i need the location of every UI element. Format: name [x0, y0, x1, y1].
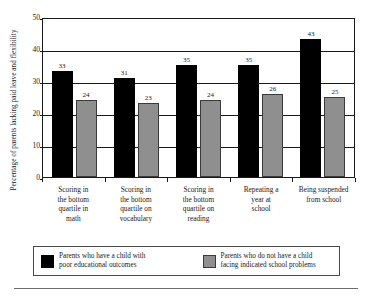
bar-group: 3526	[230, 19, 292, 177]
bar[interactable]: 23	[138, 103, 159, 177]
y-tick-label: 0	[24, 174, 40, 182]
legend-label-line: Parents who do not have a child	[221, 252, 316, 261]
legend-entry-dark: Parents who have a child withpoor educat…	[34, 252, 196, 271]
bar[interactable]: 26	[262, 94, 283, 177]
plot-area: 33243123352435264325	[42, 18, 355, 178]
y-tick-label: 20	[24, 110, 40, 118]
bar-value-label: 33	[59, 62, 66, 70]
bar-group: 4325	[292, 19, 354, 177]
x-category-label: Scoring inthe bottomquartile inmath	[42, 185, 105, 237]
x-axis-tick-marks	[42, 178, 355, 182]
legend-label-light: Parents who do not have a childfacing in…	[221, 252, 316, 271]
bar-value-label: 31	[121, 69, 128, 77]
y-tick-label: 50	[24, 14, 40, 22]
y-axis-title: Percentage of parents lacking paid leave…	[6, 4, 22, 216]
x-tick-mark	[42, 178, 43, 182]
bar-value-label: 24	[207, 91, 214, 99]
bar[interactable]: 24	[76, 100, 97, 177]
bottom-divider	[14, 288, 358, 289]
legend-label-dark: Parents who have a child withpoor educat…	[59, 252, 145, 271]
bar-groups: 33243123352435264325	[43, 19, 354, 177]
bar-group: 3123	[105, 19, 167, 177]
legend-swatch-dark-icon	[41, 255, 54, 268]
bar[interactable]: 24	[200, 100, 221, 177]
bar-value-label: 43	[307, 30, 314, 38]
x-tick-mark	[355, 178, 356, 182]
bar-value-label: 35	[245, 56, 252, 64]
x-category-label: Being suspendedfrom school	[292, 185, 355, 237]
x-category-label: Scoring inthe bottomquartile onreading	[167, 185, 230, 237]
bar[interactable]: 43	[300, 39, 321, 177]
legend-entry-light: Parents who do not have a childfacing in…	[196, 252, 340, 271]
legend-label-line: facing indicated school problems	[221, 261, 316, 270]
chart-legend: Parents who have a child withpoor educat…	[33, 246, 340, 276]
y-tick-label: 30	[24, 78, 40, 86]
legend-label-line: poor educational outcomes	[59, 261, 145, 270]
bar-group: 3524	[167, 19, 229, 177]
bar-value-label: 25	[331, 88, 338, 96]
y-tick-label: 40	[24, 46, 40, 54]
x-tick-mark	[230, 178, 231, 182]
bar-value-label: 35	[183, 56, 190, 64]
legend-label-line: Parents who have a child with	[59, 252, 145, 261]
bar-value-label: 23	[145, 94, 152, 102]
bar-group: 3324	[43, 19, 105, 177]
y-tick-label: 10	[24, 142, 40, 150]
bar-value-label: 26	[269, 85, 276, 93]
bar[interactable]: 25	[324, 97, 345, 177]
bar[interactable]: 33	[52, 71, 73, 177]
x-tick-mark	[105, 178, 106, 182]
legend-swatch-light-icon	[203, 255, 216, 268]
bar-chart-figure: Percentage of parents lacking paid leave…	[0, 0, 369, 296]
bar-value-label: 24	[83, 91, 90, 99]
x-tick-mark	[167, 178, 168, 182]
x-category-label: Repeating ayear atschool	[230, 185, 293, 237]
bar[interactable]: 35	[238, 65, 259, 177]
bar[interactable]: 35	[176, 65, 197, 177]
x-tick-mark	[292, 178, 293, 182]
bar[interactable]: 31	[114, 78, 135, 177]
y-axis-tick-labels: 01020304050	[24, 14, 40, 178]
x-axis-category-labels: Scoring inthe bottomquartile inmathScori…	[42, 185, 355, 237]
x-category-label: Scoring inthe bottomquartile onvocabular…	[105, 185, 168, 237]
